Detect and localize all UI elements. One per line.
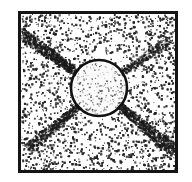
figure-root: Scanned halftone micrograph: circular ob… — [0, 0, 192, 182]
central-circle-group — [71, 60, 127, 116]
halftone-figure: Scanned halftone micrograph: circular ob… — [0, 0, 192, 182]
